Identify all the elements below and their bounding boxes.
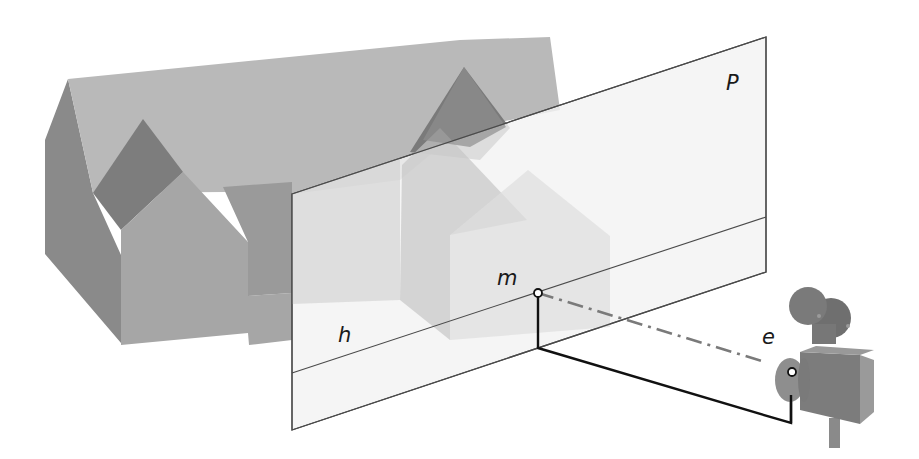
label-point-m: m [497,268,517,289]
reel-hub [817,314,821,318]
camera-reel-front [789,287,827,325]
label-eye-e: e [762,327,775,348]
reel-hub [846,324,850,328]
camera-reel-post [812,324,836,344]
camera-body-side [860,355,874,424]
point-e [788,368,796,376]
point-m [534,289,542,297]
label-plane-p: P [726,73,739,94]
lens-barrel [798,358,810,402]
perspective-diagram [0,0,919,459]
label-horizon-h: h [338,325,351,346]
camera-stand [829,418,840,448]
